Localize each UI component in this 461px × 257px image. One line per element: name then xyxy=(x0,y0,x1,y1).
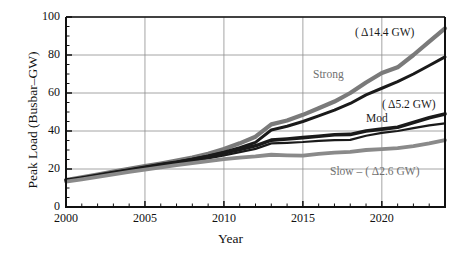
annotation-strong-delta: ( Δ14.4 GW) xyxy=(355,26,414,38)
x-tick-label: 2010 xyxy=(202,211,246,226)
y-tick-label: 20 xyxy=(20,161,60,176)
annotation-strong-label: Strong xyxy=(313,68,344,80)
y-tick-label: 60 xyxy=(20,85,60,100)
annotation-mod-label: Mod xyxy=(366,112,388,124)
x-tick-label: 2020 xyxy=(360,211,404,226)
x-tick-label: 2000 xyxy=(44,211,88,226)
y-tick-label: 40 xyxy=(20,123,60,138)
y-tick-label: 80 xyxy=(20,47,60,62)
plot-frame xyxy=(66,17,445,207)
x-tick-label: 2015 xyxy=(281,211,325,226)
annotation-slow-label: Slow – ( Δ2.6 GW) xyxy=(330,165,419,177)
y-tick-label: 100 xyxy=(20,9,60,24)
peak-load-forecast-chart: Peak Load (Busbar–GW) Year 0204060801002… xyxy=(0,0,461,257)
series-line-strong-lower xyxy=(66,57,445,181)
annotation-mod-delta: ( Δ5.2 GW) xyxy=(382,98,436,110)
x-tick-label: 2005 xyxy=(123,211,167,226)
